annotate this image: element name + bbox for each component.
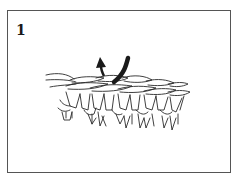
crochet-illustration [0,0,244,183]
arrow-up-icon [96,57,106,76]
stitch-posts [58,92,184,130]
hook-icon [114,58,128,82]
